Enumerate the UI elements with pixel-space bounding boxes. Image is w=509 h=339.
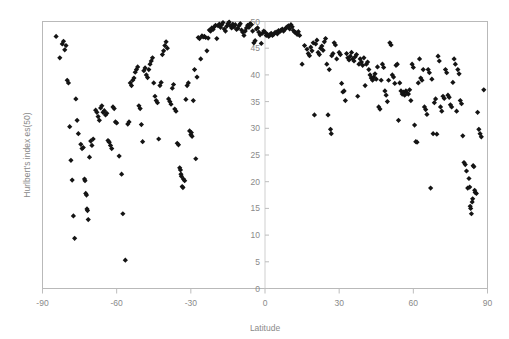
- y-tick-label: 15: [251, 203, 261, 213]
- y-tick-label: 10: [251, 230, 261, 240]
- x-tick-label: -60: [111, 298, 124, 308]
- scatter-plot-figure: 05101520253035404550 -90-60-300306090 La…: [0, 0, 509, 339]
- y-tick-label: 35: [251, 97, 261, 107]
- y-tick-label: 30: [251, 123, 261, 133]
- y-tick-label: 5: [255, 257, 260, 267]
- x-tick-label: -90: [36, 298, 49, 308]
- x-axis-title: Latitude: [250, 323, 281, 333]
- x-tick-label: 90: [483, 298, 493, 308]
- x-tick-label: 30: [334, 298, 344, 308]
- y-tick-label: 20: [251, 177, 261, 187]
- chart-canvas: 05101520253035404550 -90-60-300306090 La…: [0, 0, 509, 339]
- y-tick-label: 0: [255, 284, 260, 294]
- x-tick-label: -30: [185, 298, 198, 308]
- y-tick-label: 25: [251, 150, 261, 160]
- y-tick-label: 45: [251, 43, 261, 53]
- y-tick-label: 40: [251, 70, 261, 80]
- y-axis-title: Hurlbert's index es(50): [22, 112, 32, 197]
- x-tick-label: 0: [263, 298, 268, 308]
- x-tick-label: 60: [409, 298, 419, 308]
